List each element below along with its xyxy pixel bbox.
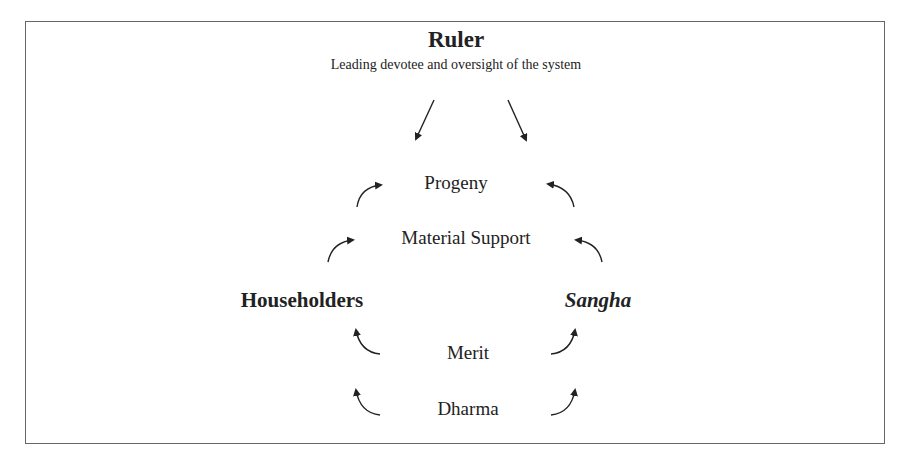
arrows-layer [0, 0, 911, 468]
progeny-arrow-right-icon [548, 184, 574, 207]
material-arrow-left-icon [328, 240, 353, 262]
ruler-arrow-left-icon [416, 100, 434, 139]
dharma-arrow-right-icon [551, 390, 575, 415]
material-arrow-right-icon [576, 240, 602, 262]
merit-arrow-left-icon [356, 330, 380, 354]
merit-arrow-right-icon [551, 330, 575, 354]
dharma-arrow-left-icon [356, 390, 380, 415]
progeny-arrow-left-icon [357, 185, 381, 207]
ruler-arrow-right-icon [508, 100, 526, 140]
